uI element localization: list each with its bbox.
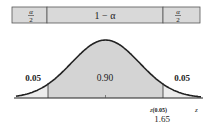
right-cell-denominator: 2 [176, 16, 180, 24]
left-cell-denominator: 2 [29, 16, 33, 24]
critical-z-sub: (0.05) [153, 107, 168, 114]
critical-z-label: z(0.05) [149, 106, 167, 114]
middle-cell-label: 1 − α [95, 10, 117, 21]
critical-value: 1.65 [154, 114, 170, 124]
top-bar-right-cell [163, 7, 200, 23]
top-bar: α 2 1 − α α 2 [12, 7, 200, 24]
center-label: 0.90 [97, 73, 114, 83]
right-tail-label: 0.05 [174, 73, 190, 83]
z-axis-label: z [194, 106, 198, 114]
left-tail-label: 0.05 [25, 73, 41, 83]
normal-distribution-diagram: α 2 1 − α α 2 0.05 0.90 0.05 z(0.05) z 1… [0, 0, 217, 132]
